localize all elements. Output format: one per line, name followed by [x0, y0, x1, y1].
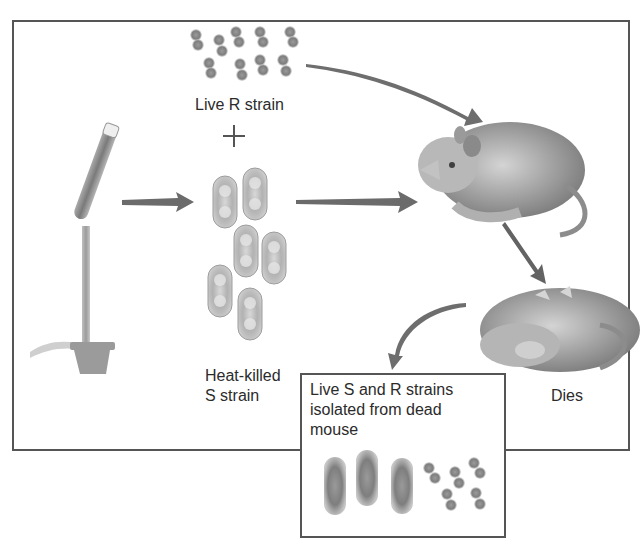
dies-label: Dies	[551, 386, 583, 406]
isolated-strains-label: Live S and R strains isolated from dead …	[310, 380, 500, 440]
live-r-strain-label: Live R strain	[195, 95, 284, 115]
plus-icon	[222, 124, 246, 148]
heat-killed-s-strain-label: Heat-killed S strain	[205, 366, 281, 406]
